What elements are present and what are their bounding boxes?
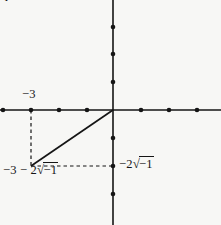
- tick-dot: [1, 108, 6, 113]
- imaginary-part-prefix: −2: [119, 157, 133, 171]
- tick-dot: [167, 108, 172, 113]
- tick-dot: [195, 108, 200, 113]
- complex-number-prefix: −3 − 2: [3, 163, 37, 177]
- origin-to-point-vector: [31, 110, 113, 166]
- tick-dot: [111, 52, 116, 57]
- complex-number-label: −3 − 2√−1: [3, 163, 58, 177]
- argand-diagram-figure: 3. −3 −3 − 2√−1 −2√−1: [0, 0, 221, 225]
- neg-three-label: −3: [22, 88, 36, 101]
- tick-dot: [111, 80, 116, 85]
- complex-plane-plot: [0, 0, 221, 225]
- tick-dot: [111, 192, 116, 197]
- radicand: −1: [139, 156, 154, 171]
- tick-dot: [111, 136, 116, 141]
- tick-dot: [139, 108, 144, 113]
- imaginary-part-label: −2√−1: [119, 157, 154, 171]
- radicand: −1: [43, 162, 58, 177]
- tick-dot: [85, 108, 90, 113]
- tick-dot: [57, 108, 62, 113]
- tick-dot: [111, 25, 116, 30]
